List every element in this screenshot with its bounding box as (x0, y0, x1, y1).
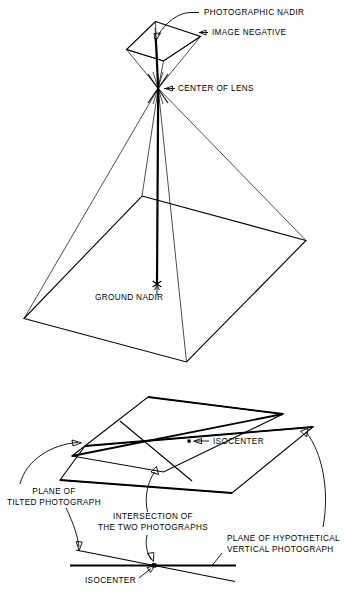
plane-emphasis-edges (60, 397, 313, 493)
label-plane-of-hypothetical-line1: PLANE OF HYPOTHETICAL (227, 534, 340, 543)
lower-panel-group: ISOCENTER PLANE OF TILTED PHOTOGRAPH INT… (7, 397, 340, 585)
plumb-line-to-ground-nadir (157, 89, 158, 284)
label-plane-of-tilted-photograph-line1: PLANE OF (32, 487, 75, 496)
photogrammetry-diagram: PHOTOGRAPHIC NADIR IMAGE NEGATIVE CENTER… (0, 0, 352, 598)
negative-plane-projection-edges (127, 22, 201, 89)
intersection-leader-upper (146, 467, 158, 513)
intersection-line-upper (120, 421, 192, 481)
label-center-of-lens: CENTER OF LENS (178, 84, 254, 93)
negative-prism-side-faces (127, 37, 201, 62)
upper-panel-group: PHOTOGRAPHIC NADIR IMAGE NEGATIVE CENTER… (24, 8, 306, 362)
diagram-page: PHOTOGRAPHIC NADIR IMAGE NEGATIVE CENTER… (0, 0, 352, 598)
tilted-plane-leader-upper (20, 440, 82, 484)
hypothetical-plane-leader-upper (301, 429, 326, 528)
isocenter-leader-upper (194, 439, 210, 444)
tilted-plane-leader-lower (66, 508, 82, 551)
label-intersection-line1: INTERSECTION OF (113, 512, 193, 521)
label-image-negative: IMAGE NEGATIVE (212, 28, 287, 37)
label-ground-nadir: GROUND NADIR (95, 293, 163, 302)
ground-plane-quadrilateral (24, 196, 306, 362)
label-intersection-line2: THE TWO PHOTOGRAPHS (98, 523, 208, 532)
photographic-nadir-leader (154, 13, 199, 42)
label-photographic-nadir: PHOTOGRAPHIC NADIR (204, 8, 304, 17)
hypothetical-plane-leader-lower (213, 553, 223, 565)
image-negative-leader (199, 30, 208, 35)
label-isocenter-upper: ISOCENTER (213, 437, 264, 446)
isocenter-marker-upper (188, 440, 191, 443)
intersection-leader-lower (146, 535, 154, 562)
isocenter-leader-lower (139, 566, 155, 578)
label-plane-of-tilted-photograph-line2: TILTED PHOTOGRAPH (7, 498, 101, 507)
label-plane-of-hypothetical-line2: VERTICAL PHOTOGRAPH (227, 545, 334, 554)
label-isocenter-lower: ISOCENTER (85, 576, 136, 585)
ground-pyramid-rays (24, 88, 306, 362)
center-of-lens-leader (164, 86, 175, 91)
